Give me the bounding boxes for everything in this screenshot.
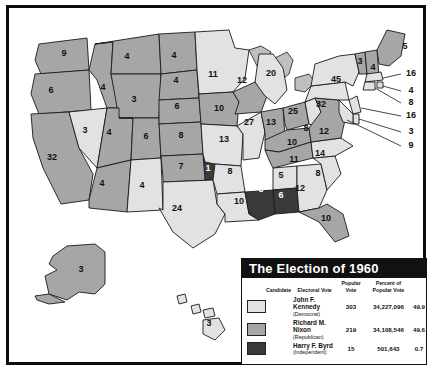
state-ks[interactable] (159, 122, 203, 158)
legend-row: Harry F. Byrd(Independent)15501,6430.7 (242, 341, 426, 357)
candidate-name: Richard M. Nixon (293, 319, 336, 334)
state-ct[interactable] (363, 82, 375, 90)
state-de[interactable] (353, 114, 359, 124)
ev-label-nc: 14 (315, 148, 325, 158)
ev-label-ri: 4 (408, 85, 413, 95)
legend-row: John F. Kennedy(Democrat)30334,227,09649… (242, 295, 426, 318)
ev-label-ak: 3 (78, 264, 83, 274)
state-nm[interactable] (127, 158, 163, 212)
ev-label-az: 4 (99, 178, 104, 188)
ev-label-ok: 7 (178, 161, 183, 171)
state-ak[interactable] (45, 244, 105, 300)
ev-label-ca: 32 (47, 152, 57, 162)
ev-label-fl: 10 (321, 213, 331, 223)
candidate-name: John F. Kennedy (293, 296, 336, 311)
state-ri[interactable] (377, 82, 383, 88)
ev-label-la: 10 (234, 196, 244, 206)
ev-label-wa: 9 (61, 48, 66, 58)
ev-label-sd: 4 (173, 75, 178, 85)
percent-value: 49.6 (412, 318, 426, 341)
legend-swatch-cell (242, 341, 292, 357)
election-legend: The Election of 1960 Candidate Electoral… (241, 258, 427, 365)
col-popular-vote: Popular Vote (337, 280, 365, 295)
ev-label-ut: 4 (106, 127, 111, 137)
legend-title: The Election of 1960 (242, 259, 426, 278)
ev-label-in: 13 (266, 117, 276, 127)
state-tx[interactable] (159, 180, 225, 248)
state-ma[interactable] (365, 72, 383, 82)
ev-label-id: 4 (100, 82, 105, 92)
state-ne[interactable] (159, 98, 201, 124)
state-az[interactable] (89, 160, 131, 212)
ev-label-va: 12 (319, 126, 329, 136)
state-nd[interactable] (159, 32, 197, 74)
ev-label-tn: 11 (289, 154, 299, 164)
ev-label-wv: 8 (303, 123, 308, 133)
results-table: Candidate Electoral Vote Popular Vote Pe… (242, 280, 426, 356)
col-percent: Percent of Popular Vote (365, 280, 412, 295)
ev-label-ar: 8 (227, 166, 232, 176)
popular-vote-value: 34,108,546 (365, 318, 412, 341)
ev-label-me: 5 (402, 41, 407, 51)
ev-label-nm: 4 (139, 180, 144, 190)
state-mo[interactable] (201, 124, 243, 166)
col-electoral-vote: Electoral Vote (292, 280, 337, 295)
ev-label-sc: 8 (315, 168, 320, 178)
map-frame: 9632344344644468712411101381012278201356… (6, 5, 426, 365)
col-candidate: Candidate (242, 280, 292, 295)
ev-label-ok2: 1 (205, 163, 210, 173)
candidate-cell: John F. Kennedy(Democrat) (292, 295, 337, 318)
ev-label-nj: 16 (406, 110, 416, 120)
ev-label-mn: 11 (208, 69, 218, 79)
ev-label-al1: 5 (278, 170, 283, 180)
ev-label-mt: 4 (124, 51, 129, 61)
ev-label-de: 3 (408, 126, 413, 136)
popular-vote-value: 34,227,096 (365, 295, 412, 318)
legend-swatch-cell (242, 295, 292, 318)
ev-label-nv: 3 (82, 125, 87, 135)
table-header-row: Candidate Electoral Vote Popular Vote Pe… (242, 280, 426, 295)
state-hi-oahu[interactable] (191, 304, 201, 314)
results-table-body: John F. Kennedy(Democrat)30334,227,09649… (242, 295, 426, 356)
electoral-vote-value: 303 (337, 295, 365, 318)
percent-value: 49.9 (412, 295, 426, 318)
ev-label-ne: 6 (174, 101, 179, 111)
state-sd[interactable] (159, 70, 199, 100)
ev-label-mi: 20 (266, 68, 276, 78)
state-or[interactable] (31, 70, 91, 114)
ev-label-nd: 4 (171, 50, 176, 60)
nixon-swatch (247, 323, 266, 336)
ev-label-co: 6 (143, 131, 148, 141)
electoral-vote-value: 15 (337, 341, 365, 357)
legend-swatch-cell (242, 318, 292, 341)
byrd-swatch (247, 342, 266, 355)
ev-label-wi: 12 (237, 75, 247, 85)
electoral-vote-value: 219 (337, 318, 365, 341)
ev-label-ks: 8 (178, 130, 183, 140)
ev-label-al2: 6 (278, 190, 283, 200)
popular-vote-value: 501,643 (365, 341, 412, 357)
state-me[interactable] (377, 30, 405, 66)
candidate-cell: Harry F. Byrd(Independent) (292, 341, 337, 357)
ev-label-ma: 16 (406, 68, 416, 78)
candidate-party: (Independent) (293, 349, 336, 355)
ev-label-ky: 10 (287, 137, 297, 147)
candidate-party: (Republican) (293, 334, 336, 340)
percent-value: 0.7 (412, 341, 426, 357)
ev-label-ny: 45 (331, 74, 341, 84)
kennedy-swatch (247, 300, 266, 313)
ev-label-md: 9 (408, 140, 413, 150)
ev-label-oh: 25 (288, 106, 298, 116)
candidate-party: (Democrat) (293, 311, 336, 317)
candidate-name: Harry F. Byrd (293, 342, 336, 349)
ev-label-hi: 3 (206, 318, 211, 328)
state-hi-kauai[interactable] (177, 294, 187, 304)
ev-label-ct: 8 (408, 97, 413, 107)
candidate-cell: Richard M. Nixon(Republican) (292, 318, 337, 341)
ev-label-nh: 4 (370, 62, 375, 72)
state-hi-maui[interactable] (203, 308, 215, 318)
ev-label-vt: 3 (357, 56, 362, 66)
ev-label-ia: 10 (214, 103, 224, 113)
state-al-kennedy[interactable] (273, 166, 297, 190)
legend-row: Richard M. Nixon(Republican)21934,108,54… (242, 318, 426, 341)
